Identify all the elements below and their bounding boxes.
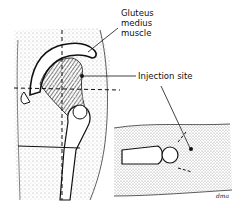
gluteus-medius-label: Gluteus medius muscle — [121, 8, 154, 38]
injection-site-marker — [80, 74, 84, 78]
injection-site-marker-lateral — [189, 147, 193, 151]
gluteus-label-line1: Gluteus — [121, 8, 154, 18]
gluteus-label-line3: muscle — [121, 28, 154, 38]
injection-site-label: Injection site — [138, 71, 193, 81]
lateral-view-thigh — [114, 124, 232, 196]
illustration-canvas: Gluteus medius muscle Injection site dma — [0, 0, 244, 208]
artist-signature: dma — [216, 192, 229, 199]
gluteus-label-line2: medius — [121, 18, 154, 28]
